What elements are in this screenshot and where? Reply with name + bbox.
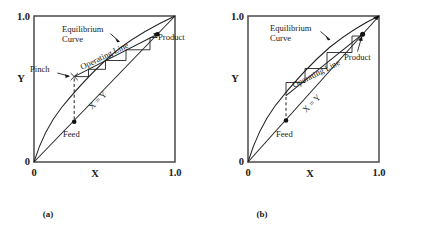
equilibrium-curve-label-line1-b: Equilibrium bbox=[270, 23, 312, 33]
x-axis-label-b: X bbox=[306, 168, 314, 179]
y-axis-label-a: Y bbox=[17, 73, 25, 84]
diagonal-label-b: X = Y bbox=[300, 92, 322, 114]
x-axis-min-tick-b: 0 bbox=[245, 167, 250, 178]
y-axis-min-tick-a: 0 bbox=[25, 156, 30, 167]
diagram-panel-b: 1.0 0 0 1.0 Y X Equilibrium Curve Operat… bbox=[210, 0, 421, 237]
feed-label-a: Feed bbox=[63, 129, 80, 139]
feed-label-b: Feed bbox=[276, 129, 293, 139]
x-axis-max-tick-b: 1.0 bbox=[372, 167, 385, 178]
product-label-b: Product bbox=[344, 52, 371, 62]
y-axis-label-b: Y bbox=[231, 73, 239, 84]
equilibrium-curve-label-line1-a: Equilibrium bbox=[62, 24, 104, 34]
pinch-label-a: Pinch bbox=[30, 64, 50, 74]
feed-point-b bbox=[284, 118, 289, 123]
feed-point-a bbox=[72, 120, 77, 125]
panel-b-svg: 1.0 0 0 1.0 Y X Equilibrium Curve Operat… bbox=[210, 0, 421, 237]
figure-container: 1.0 0 0 1.0 Y X Equilibrium Curve Pinch … bbox=[0, 0, 421, 237]
y-axis-min-tick-b: 0 bbox=[239, 156, 244, 167]
x-axis-label-a: X bbox=[91, 168, 99, 179]
equilibrium-curve-label-line2-b: Curve bbox=[270, 33, 291, 43]
panel-caption-b: (b) bbox=[257, 209, 268, 219]
equilibrium-leader-b bbox=[321, 32, 331, 41]
product-point-b bbox=[360, 32, 365, 37]
y-axis-max-tick-b: 1.0 bbox=[231, 11, 244, 22]
equilibrium-curve-label-line2-a: Curve bbox=[62, 34, 83, 44]
diagonal-line-b bbox=[248, 16, 379, 162]
x-axis-max-tick-a: 1.0 bbox=[168, 167, 181, 178]
equilibrium-leader-a bbox=[111, 34, 120, 43]
diagonal-label-a: X = Y bbox=[86, 89, 108, 111]
product-label-a: Product bbox=[158, 32, 185, 42]
x-axis-min-tick-a: 0 bbox=[31, 167, 36, 178]
operating-line-label-a: Operating Line bbox=[78, 40, 130, 72]
pinch-leader-a bbox=[58, 73, 70, 78]
operating-line-label-b: Operating Line bbox=[290, 57, 341, 90]
panel-a-svg: 1.0 0 0 1.0 Y X Equilibrium Curve Pinch … bbox=[0, 0, 211, 237]
diagram-panel-a: 1.0 0 0 1.0 Y X Equilibrium Curve Pinch … bbox=[0, 0, 211, 237]
panel-caption-a: (a) bbox=[43, 209, 54, 219]
y-axis-max-tick-a: 1.0 bbox=[17, 11, 30, 22]
